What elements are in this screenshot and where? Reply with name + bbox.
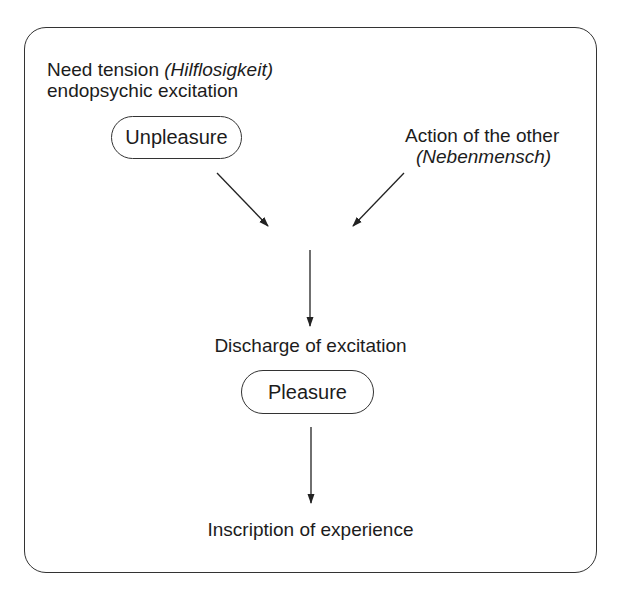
arrow-action-other bbox=[353, 173, 404, 226]
arrow-unpleasure bbox=[217, 173, 268, 226]
arrows bbox=[0, 0, 621, 595]
